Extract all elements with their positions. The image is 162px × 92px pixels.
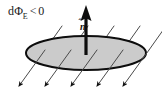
normal-vector-label: ̂n bbox=[80, 22, 86, 32]
field-line-upper-5 bbox=[149, 26, 162, 50]
normal-vector-symbol: n bbox=[80, 21, 86, 32]
flux-label-operator: < bbox=[30, 4, 37, 18]
flux-label-value: 0 bbox=[38, 4, 44, 18]
flux-label-phi: Φ bbox=[14, 4, 23, 18]
flux-label-subscript: E bbox=[23, 12, 28, 21]
flux-label: dΦE<0 bbox=[8, 4, 44, 20]
flux-diagram-figure: dΦE<0 ̂n bbox=[0, 0, 162, 92]
